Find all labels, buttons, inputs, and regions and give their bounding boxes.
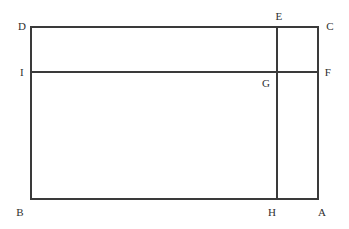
vertex-label-G: G — [262, 78, 270, 89]
vertex-label-I: I — [20, 67, 24, 78]
geometry-diagram: ABCDEFGHI — [0, 0, 349, 229]
vertex-label-E: E — [276, 11, 283, 22]
segment-layer — [31, 27, 318, 199]
vertex-label-D: D — [18, 21, 26, 32]
vertex-label-F: F — [325, 67, 331, 78]
vertex-label-A: A — [318, 207, 326, 218]
vertex-label-B: B — [16, 207, 24, 218]
vertex-label-C: C — [326, 21, 334, 32]
vertex-label-H: H — [268, 207, 276, 218]
figure-svg — [0, 0, 349, 229]
